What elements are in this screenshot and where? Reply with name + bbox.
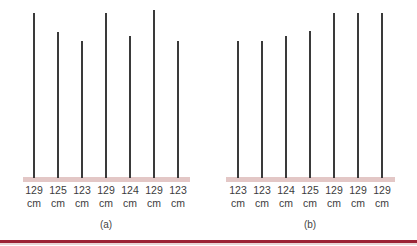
stick-label: 123cm xyxy=(166,184,190,210)
stick-unit: cm xyxy=(22,197,46,210)
stick-value: 123 xyxy=(166,184,190,197)
stick-label: 129cm xyxy=(142,184,166,210)
stick-label: 125cm xyxy=(298,184,322,210)
height-stick xyxy=(309,31,311,178)
stick-label: 129cm xyxy=(94,184,118,210)
stick-value: 129 xyxy=(346,184,370,197)
stick-label: 129cm xyxy=(22,184,46,210)
height-stick xyxy=(57,32,59,178)
stick-unit: cm xyxy=(322,197,346,210)
stick-value: 125 xyxy=(46,184,70,197)
stick-unit: cm xyxy=(346,197,370,210)
stick-value: 124 xyxy=(118,184,142,197)
stick-unit: cm xyxy=(298,197,322,210)
height-stick xyxy=(177,41,179,178)
height-stick xyxy=(129,36,131,178)
stick-label: 129cm xyxy=(322,184,346,210)
stick-value: 123 xyxy=(70,184,94,197)
panel-caption: (b) xyxy=(290,219,330,230)
stick-unit: cm xyxy=(118,197,142,210)
height-stick xyxy=(153,10,155,178)
panel-caption: (a) xyxy=(86,219,126,230)
height-stick xyxy=(261,41,263,178)
stick-value: 123 xyxy=(226,184,250,197)
stick-unit: cm xyxy=(250,197,274,210)
height-stick xyxy=(105,13,107,178)
stick-unit: cm xyxy=(46,197,70,210)
stick-label: 123cm xyxy=(226,184,250,210)
height-stick xyxy=(333,13,335,178)
stick-label: 123cm xyxy=(70,184,94,210)
stick-value: 125 xyxy=(298,184,322,197)
height-stick xyxy=(33,13,35,178)
stick-unit: cm xyxy=(70,197,94,210)
stick-unit: cm xyxy=(166,197,190,210)
stick-label: 124cm xyxy=(118,184,142,210)
stick-label: 124cm xyxy=(274,184,298,210)
stick-unit: cm xyxy=(274,197,298,210)
height-stick xyxy=(357,13,359,178)
stick-unit: cm xyxy=(142,197,166,210)
stick-value: 123 xyxy=(250,184,274,197)
stick-unit: cm xyxy=(94,197,118,210)
divider-rule-shadow xyxy=(0,243,417,245)
height-stick xyxy=(237,41,239,178)
stick-value: 129 xyxy=(94,184,118,197)
stick-value: 129 xyxy=(142,184,166,197)
stick-unit: cm xyxy=(226,197,250,210)
stick-value: 124 xyxy=(274,184,298,197)
stick-value: 129 xyxy=(322,184,346,197)
stick-value: 129 xyxy=(22,184,46,197)
height-stick xyxy=(381,13,383,178)
figure: 129cm125cm123cm129cm124cm129cm123cm(a)12… xyxy=(0,0,417,246)
stick-label: 129cm xyxy=(370,184,394,210)
stick-value: 129 xyxy=(370,184,394,197)
height-stick xyxy=(81,41,83,178)
stick-label: 129cm xyxy=(346,184,370,210)
stick-label: 123cm xyxy=(250,184,274,210)
height-stick xyxy=(285,36,287,178)
stick-unit: cm xyxy=(370,197,394,210)
stick-label: 125cm xyxy=(46,184,70,210)
